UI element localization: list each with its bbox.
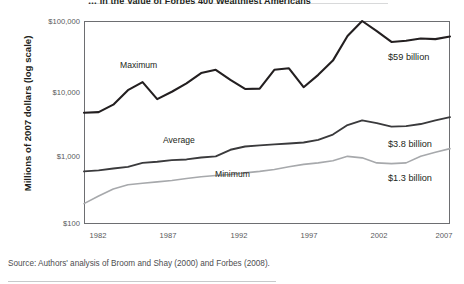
x-tick-1982: 1982 [90, 231, 107, 240]
series-label-minimum: Minimum [215, 169, 250, 179]
x-tick-1987: 1987 [160, 231, 177, 240]
y-tick-10000: $10,000 [24, 88, 80, 97]
x-tick-1992: 1992 [231, 231, 248, 240]
y-tick-1000: $1,000 [24, 152, 80, 161]
x-tick-2002: 2002 [371, 231, 388, 240]
value-label-average: $3.8 billion [388, 139, 432, 149]
value-label-minimum: $1.3 billion [388, 173, 432, 183]
series-label-average: Average [163, 135, 195, 145]
y-tick-100: $100 [24, 219, 80, 228]
figure-container: … in the Value of Forbes 400 Wealthiest … [0, 0, 464, 284]
x-tick-1997: 1997 [301, 231, 318, 240]
x-tick-2007: 2007 [436, 231, 453, 240]
series-label-maximum: Maximum [120, 60, 157, 70]
y-tick-100000: $100,000 [24, 17, 80, 26]
source-note: Source: Authors' analysis of Broom and S… [8, 259, 270, 268]
bottom-divider [8, 281, 276, 282]
chart-title: … in the Value of Forbes 400 Wealthiest … [88, 0, 388, 6]
value-label-maximum: $59 billion [388, 52, 429, 62]
y-axis-ticks: $100,000 $10,000 $1,000 $100 [22, 0, 80, 284]
